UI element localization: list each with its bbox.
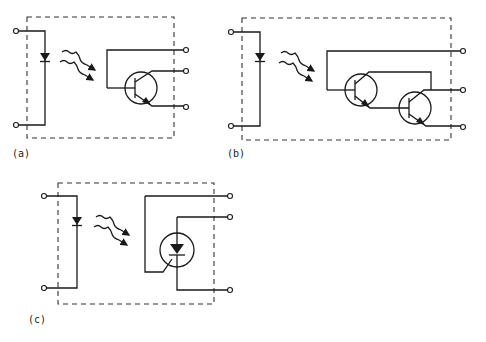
optocoupler-diagram: (a) [0, 0, 486, 342]
terminal-anode [42, 194, 47, 199]
package-outline [27, 17, 174, 138]
terminal-collector [461, 88, 466, 93]
panel-label-a: (a) [12, 148, 30, 159]
panel-c: (c) [28, 183, 233, 325]
terminal-base [184, 48, 189, 53]
panel-a: (a) [12, 17, 189, 159]
led-input [14, 29, 51, 128]
led-diode-icon [40, 53, 50, 62]
light-rays-icon [279, 52, 314, 82]
terminal-anode [14, 29, 19, 34]
terminal-cathode [14, 123, 19, 128]
led-diode-icon [255, 53, 265, 62]
led-diode-icon [72, 217, 82, 226]
terminal-base [461, 49, 466, 54]
terminal-anode-scr [228, 215, 233, 220]
light-rays-icon [94, 216, 129, 246]
light-rays-icon [60, 51, 95, 81]
phototransistor-icon [107, 50, 184, 106]
terminal-cathode [229, 124, 234, 129]
panel-label-c: (c) [28, 314, 46, 325]
terminal-collector [184, 69, 189, 74]
terminal-cathode-scr [228, 288, 233, 293]
led-input [42, 194, 83, 291]
package-outline [58, 183, 214, 304]
panel-label-b: (b) [227, 148, 245, 159]
led-input [229, 30, 266, 129]
panel-b: (b) [227, 18, 466, 159]
terminal-gate [228, 194, 233, 199]
terminal-emitter [461, 125, 466, 130]
terminal-cathode [42, 286, 47, 291]
darlington-transistor-1-icon [327, 51, 461, 108]
photo-scr-icon [145, 196, 228, 290]
terminal-emitter [184, 105, 189, 110]
terminal-anode [229, 30, 234, 35]
